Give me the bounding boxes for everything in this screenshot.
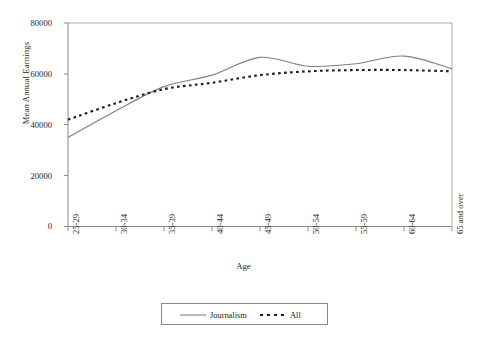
x-tick-label-65-and-over: 65 and over — [455, 193, 465, 234]
legend-item-all: All — [260, 308, 301, 322]
legend-swatch-solid-icon — [180, 311, 206, 319]
x-tick-label-30-34: 30-34 — [119, 214, 129, 234]
legend-swatch-dashed-icon — [260, 311, 286, 319]
x-tick-label-40-44: 40-44 — [215, 214, 225, 234]
x-tick-label-35-39: 35-39 — [167, 214, 177, 234]
chart-legend: Journalism All — [161, 303, 328, 325]
legend-label-journalism: Journalism — [210, 311, 247, 320]
plot-area — [0, 0, 487, 337]
x-axis-title: Age — [0, 261, 487, 271]
legend-item-journalism: Journalism — [180, 308, 247, 322]
x-tick-label-50-54: 50-54 — [311, 214, 321, 234]
x-tick-label-55-59: 55-59 — [359, 214, 369, 234]
x-tick-label-45-49: 45-49 — [263, 214, 273, 234]
x-tick-label-25-29: 25-29 — [71, 214, 81, 234]
series-line-all — [68, 70, 452, 120]
chart-figure: Mean Annual Earnings 80000 60000 40000 2… — [0, 0, 487, 337]
series-line-journalism — [68, 56, 452, 137]
x-tick-label-60-64: 60-64 — [407, 214, 417, 234]
legend-label-all: All — [290, 311, 301, 320]
